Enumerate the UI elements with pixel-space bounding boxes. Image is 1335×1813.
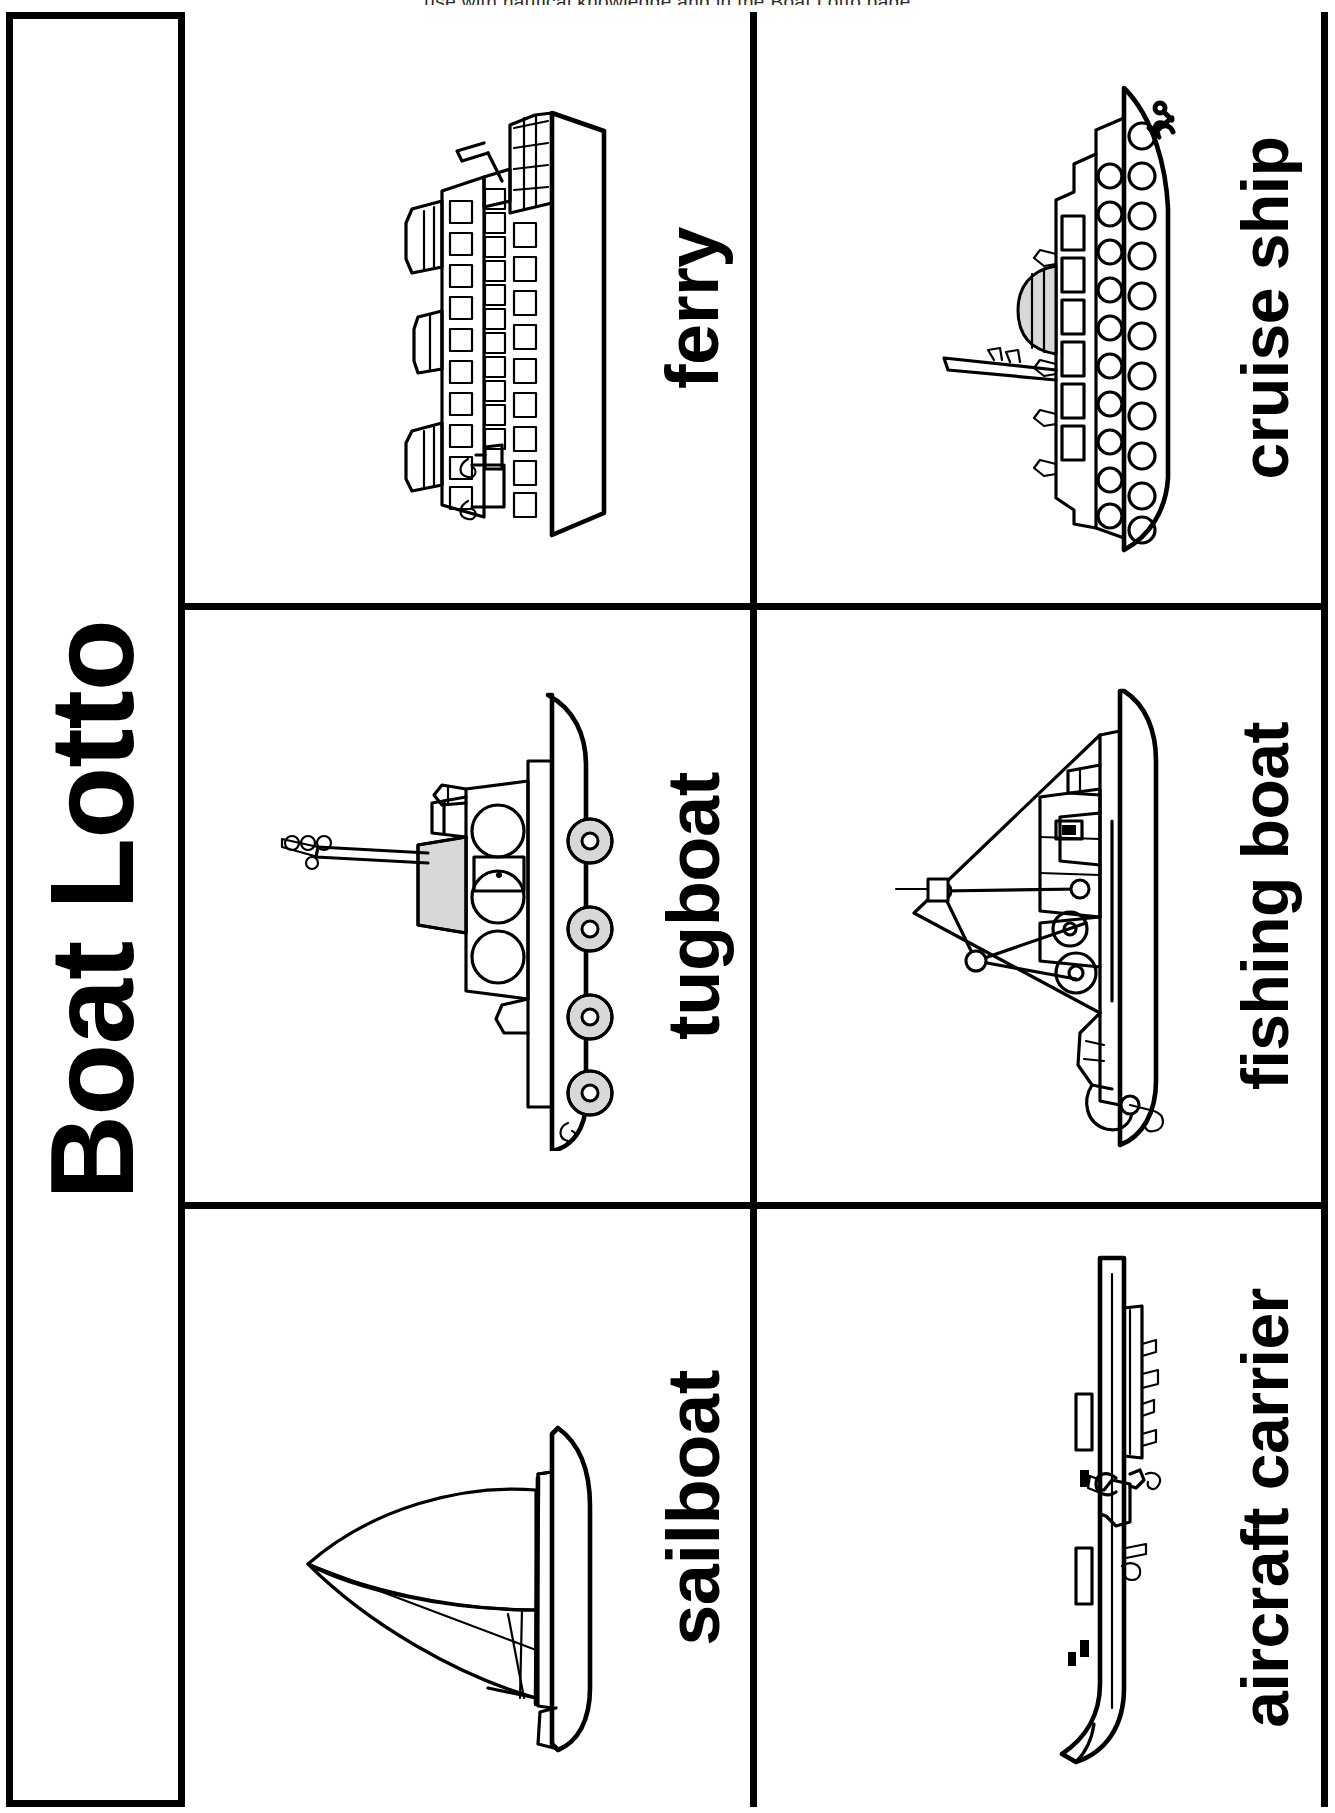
lotto-card-grid: ferry <box>185 12 1328 1807</box>
card-caption-tugboat: tugboat <box>638 610 750 1201</box>
lotto-card-ferry[interactable]: ferry <box>185 12 757 610</box>
card-caption-fishing-boat: fishing boat <box>1209 610 1321 1201</box>
card-label-tugboat: tugboat <box>657 772 731 1040</box>
lotto-card-sailboat[interactable]: sailboat <box>185 1209 757 1807</box>
title-column: Boat Lotto <box>6 12 185 1807</box>
page-title: Boat Lotto <box>33 620 151 1200</box>
lotto-card-fishing-boat[interactable]: fishing boat <box>757 610 1329 1208</box>
lotto-card-cruise-ship[interactable]: cruise ship <box>757 12 1329 610</box>
card-label-aircraft-carrier: aircraft carrier <box>1232 1288 1298 1728</box>
lotto-card-tugboat[interactable]: tugboat <box>185 610 757 1208</box>
card-label-ferry: ferry <box>657 227 731 389</box>
card-label-cruise-ship: cruise ship <box>1232 136 1298 479</box>
card-label-sailboat: sailboat <box>657 1370 731 1646</box>
card-caption-ferry: ferry <box>638 12 750 603</box>
card-caption-cruise-ship: cruise ship <box>1209 12 1321 603</box>
lotto-card-aircraft-carrier[interactable]: aircraft carrier <box>757 1209 1329 1807</box>
card-caption-sailboat: sailboat <box>638 1209 750 1807</box>
clipped-header-strip: use with nautical knowledge and in the B… <box>0 0 1335 5</box>
clipped-header-text: use with nautical knowledge and in the B… <box>0 0 1335 5</box>
card-label-fishing-boat: fishing boat <box>1232 722 1298 1090</box>
card-caption-aircraft-carrier: aircraft carrier <box>1209 1209 1321 1807</box>
